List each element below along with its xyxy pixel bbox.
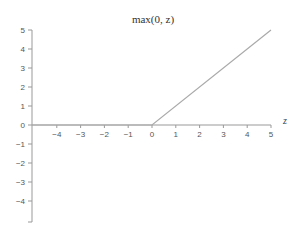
x-tick-label: 4 <box>245 130 250 139</box>
x-tick-label: −2 <box>100 130 110 139</box>
chart-title: max(0, z) <box>132 13 174 26</box>
x-tick-label: −4 <box>52 130 62 139</box>
y-tick-label: −3 <box>16 178 26 187</box>
x-tick-label: 0 <box>150 130 155 139</box>
y-tick-label: 0 <box>21 121 26 130</box>
y-tick-label: −2 <box>16 159 26 168</box>
relu-series <box>32 30 271 125</box>
y-tick-label: 3 <box>21 64 26 73</box>
y-axis: 543210−1−2−3−4 <box>16 26 32 222</box>
y-tick-label: 4 <box>21 45 26 54</box>
y-tick-label: 1 <box>21 102 26 111</box>
relu-line <box>32 30 271 125</box>
y-tick-label: 5 <box>21 26 26 35</box>
x-tick-label: 1 <box>174 130 179 139</box>
x-tick-label: 3 <box>221 130 226 139</box>
x-axis-label: z <box>282 115 287 126</box>
y-tick-label: −1 <box>16 140 26 149</box>
x-tick-label: −1 <box>124 130 134 139</box>
x-tick-label: −3 <box>76 130 86 139</box>
y-tick-label: 2 <box>21 83 26 92</box>
relu-chart: max(0, z) 543210−1−2−3−4 −4−3−2−1012345 … <box>0 0 303 235</box>
x-axis: −4−3−2−1012345 <box>32 125 274 139</box>
x-tick-label: 5 <box>269 130 274 139</box>
x-tick-label: 2 <box>197 130 202 139</box>
y-tick-label: −4 <box>16 197 26 206</box>
